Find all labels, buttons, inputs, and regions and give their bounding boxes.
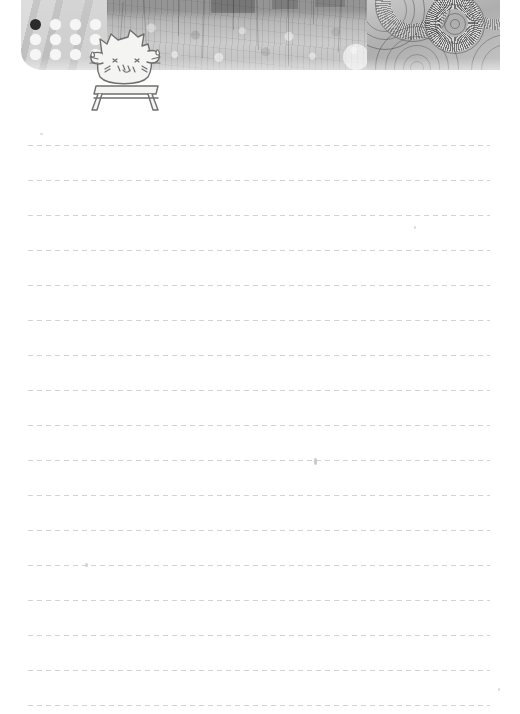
writing-line — [28, 460, 490, 461]
writing-line — [28, 215, 490, 216]
writing-line — [28, 705, 490, 706]
writing-lines — [0, 0, 520, 714]
paper-speck — [40, 133, 43, 135]
writing-line — [28, 565, 490, 566]
writing-line — [28, 530, 490, 531]
writing-line — [28, 390, 490, 391]
paper-speck — [85, 563, 88, 567]
notepaper-sheet — [0, 0, 520, 714]
paper-speck — [498, 688, 500, 691]
writing-line — [28, 670, 490, 671]
writing-line — [28, 425, 490, 426]
writing-line — [28, 635, 490, 636]
writing-line — [28, 320, 490, 321]
writing-line — [28, 285, 490, 286]
writing-line — [28, 355, 490, 356]
paper-speck — [414, 226, 416, 229]
writing-line — [28, 180, 490, 181]
writing-line — [28, 495, 490, 496]
writing-line — [28, 600, 490, 601]
writing-line — [28, 250, 490, 251]
writing-line — [28, 145, 490, 146]
paper-speck — [314, 458, 317, 465]
